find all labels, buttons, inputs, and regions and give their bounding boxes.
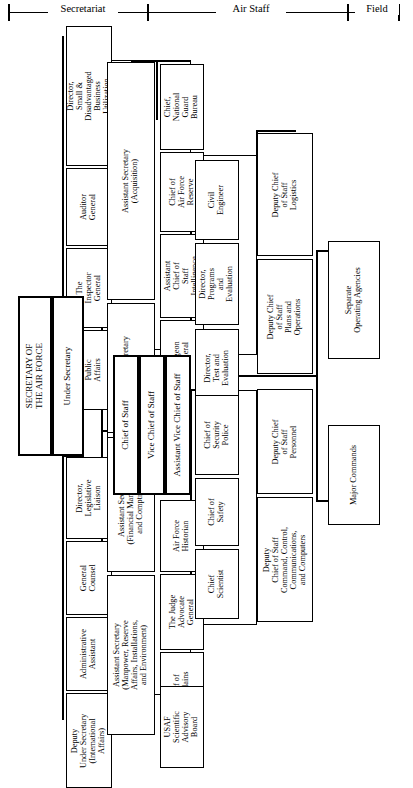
connector-dcs-logistics-stub [256,130,296,132]
box-major-commands[interactable]: Major Commands [328,425,380,525]
connector-secretariat-upper-spine [62,36,64,296]
box-director-small-disadvantaged-business[interactable]: Director, Small & Disadvantaged Business… [66,26,112,166]
box-label: Deputy Under Secretary (International Af… [71,697,107,785]
box-label: Chief of Safety [208,481,226,543]
connector-soa-stub [316,250,328,252]
box-chief-of-staff[interactable]: Chief of Staff [113,355,139,495]
ruler-label-field: Field [355,3,399,15]
box-label: Assistant Secretary (Acquisition) [122,68,140,294]
box-director-legislative-liaison[interactable]: Director, Legislative Liaison [66,457,112,539]
box-civil-engineer[interactable]: Civil Engineer [195,160,239,240]
box-vice-chief-of-staff[interactable]: Vice Chief of Staff [139,355,165,495]
box-chief-of-security-police[interactable]: Chief of Security Police [195,395,239,475]
box-deputy-chief-of-staff-plans-operations[interactable]: Deputy Chief of Staff Plans and Operatio… [257,259,313,374]
box-chief-of-safety[interactable]: Chief of Safety [195,478,239,546]
box-label: Chief, National Guard Bureau [164,67,200,147]
box-director-programs-and-evaluation[interactable]: Director, Programs and Evaluation [195,243,239,325]
box-label: Civil Engineer [208,163,226,237]
box-label: Assistant Vice Chief of Staff [173,359,183,491]
box-deputy-chief-of-staff-c4[interactable]: Deputy Chief of Staff Command, Control, … [257,497,313,622]
box-assistant-secretary-manpower-reserve[interactable]: Assistant Secretary (Manpower, Reserve A… [107,575,155,735]
box-label: Director, Programs and Evaluation [199,246,235,322]
box-deputy-chief-of-staff-personnel[interactable]: Deputy Chief of Staff Personnel [257,389,313,494]
box-label: Deputy Chief of Staff Personnel [272,392,299,492]
ruler-tick-start [8,4,10,21]
box-auditor-general[interactable]: Auditor General [66,168,112,246]
box-label: Assistant Secretary (Manpower, Reserve A… [113,579,149,731]
connector-secretariat-lower-spine [62,455,64,720]
box-label: SECRETARY OF THE AIR FORCE [25,301,44,451]
box-secretary-of-the-air-force[interactable]: SECRETARY OF THE AIR FORCE [18,296,52,456]
ruler-tick-airstaff-end [347,4,349,21]
connector-field-spine [316,250,318,500]
division-ruler: Secretariat Air Staff Field [0,0,413,26]
box-label: Separate Operating Agencies [345,244,363,356]
box-label: Director, Small & Disadvantaged Business… [67,31,112,161]
box-chief-national-guard-bureau[interactable]: Chief, National Guard Bureau [160,64,204,150]
box-label: Deputy Chief of Staff Command, Control, … [263,500,308,620]
box-label: Deputy Chief of Staff Plans and Operatio… [267,263,303,371]
ruler-label-airstaff: Air Staff [216,3,286,15]
box-label: Major Commands [350,427,359,523]
box-chief-scientist[interactable]: Chief Scientist [195,549,239,619]
box-label: Chief of Air Force Reserve [169,155,196,229]
box-label: Director, Test and Evaluation [204,332,231,404]
ruler-label-secretariat: Secretariat [48,3,118,15]
box-deputy-under-secretary-international[interactable]: Deputy Under Secretary (International Af… [66,693,112,788]
box-label: USAF Scientific Advisory Board [164,688,200,766]
box-label: Air Force Historian [173,503,191,569]
box-assistant-vice-chief-of-staff[interactable]: Assistant Vice Chief of Staff [165,355,191,495]
box-label: The Judge Advocate General [169,577,196,647]
box-label: Auditor General [80,172,98,242]
box-label: Chief of Staff [121,359,131,491]
box-administrative-assistant[interactable]: Administrative Assistant [66,617,112,691]
box-label: General Counsel [80,544,98,612]
box-label: Chief Scientist [208,552,226,616]
box-label: Deputy Chief of Staff Logistics [272,137,299,253]
ruler-tick-secretariat-end [147,4,149,21]
box-label: Vice Chief of Staff [147,359,157,491]
box-label: Chief of Security Police [204,398,231,472]
box-label: Under Secretary [63,301,73,451]
box-under-secretary[interactable]: Under Secretary [52,296,84,456]
box-separate-operating-agencies[interactable]: Separate Operating Agencies [328,241,380,359]
box-deputy-chief-of-staff-logistics[interactable]: Deputy Chief of Staff Logistics [257,133,313,256]
box-label: Administrative Assistant [80,620,98,688]
box-usaf-scientific-advisory-board[interactable]: USAF Scientific Advisory Board [160,686,204,768]
box-assistant-secretary-acquisition[interactable]: Assistant Secretary (Acquisition) [107,62,155,300]
box-label: Director, Legislative Liaison [76,460,103,536]
box-general-counsel[interactable]: General Counsel [66,541,112,615]
connector-majcom-stub [316,500,328,502]
